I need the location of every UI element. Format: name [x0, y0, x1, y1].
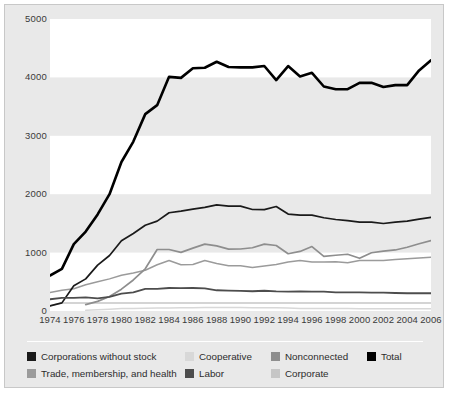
x-tick-label: 1974 [37, 314, 63, 325]
legend-label: Cooperative [199, 351, 252, 362]
legend-item: Nonconnected [271, 349, 348, 363]
legend-swatch-icon [367, 352, 376, 361]
x-tick-label: 1988 [204, 314, 230, 325]
legend-label: Nonconnected [285, 351, 348, 362]
x-tick-label: 1976 [61, 314, 87, 325]
x-tick-label: 1982 [132, 314, 158, 325]
legend-item: Corporate [271, 366, 329, 380]
legend-swatch-icon [271, 352, 280, 361]
x-axis: 1974197619781980198219841986198819901992… [50, 314, 431, 328]
y-tick-label: 4000 [7, 72, 47, 82]
legend-swatch-icon [27, 352, 36, 361]
x-tick-label: 2000 [347, 314, 373, 325]
legend-separator [27, 341, 423, 342]
x-tick-label: 1984 [156, 314, 182, 325]
legend-swatch-icon [185, 369, 194, 378]
legend-item: Cooperative [185, 349, 252, 363]
legend-label: Corporate [285, 368, 329, 379]
legend-item: Labor [185, 366, 224, 380]
legend-row: Corporations without stockCooperativeNon… [27, 349, 427, 363]
legend-swatch-icon [271, 369, 280, 378]
legend-label: Labor [199, 368, 224, 379]
legend-swatch-icon [185, 352, 194, 361]
x-tick-label: 2002 [370, 314, 396, 325]
y-tick-label: 5000 [7, 14, 47, 24]
legend-item: Trade, membership, and health [27, 366, 177, 380]
x-tick-label: 1998 [323, 314, 349, 325]
chart-figure: 010002000300040005000 197419761978198019… [4, 4, 444, 388]
x-tick-label: 1996 [299, 314, 325, 325]
legend-swatch-icon [27, 369, 36, 378]
plot-area [50, 19, 431, 311]
x-tick-label: 2006 [418, 314, 444, 325]
x-tick-label: 1978 [85, 314, 111, 325]
y-tick-label: 1000 [7, 248, 47, 258]
gridline-bands [50, 19, 431, 311]
x-tick-label: 1980 [108, 314, 134, 325]
x-tick-label: 1990 [228, 314, 254, 325]
legend-row: Trade, membership, and healthLaborCorpor… [27, 366, 427, 380]
legend-item: Corporations without stock [27, 349, 156, 363]
legend-label: Corporations without stock [41, 351, 156, 362]
x-tick-label: 1992 [251, 314, 277, 325]
legend-label: Total [381, 351, 402, 362]
legend-label: Trade, membership, and health [41, 368, 177, 379]
x-tick-label: 1986 [180, 314, 206, 325]
y-tick-label: 3000 [7, 131, 47, 141]
y-tick-label: 2000 [7, 189, 47, 199]
legend-item: Total [367, 349, 402, 363]
x-tick-label: 2004 [394, 314, 420, 325]
x-tick-label: 1994 [275, 314, 301, 325]
line-chart-svg [50, 19, 431, 311]
y-axis: 010002000300040005000 [5, 19, 47, 311]
chart-legend: Corporations without stockCooperativeNon… [27, 349, 427, 383]
